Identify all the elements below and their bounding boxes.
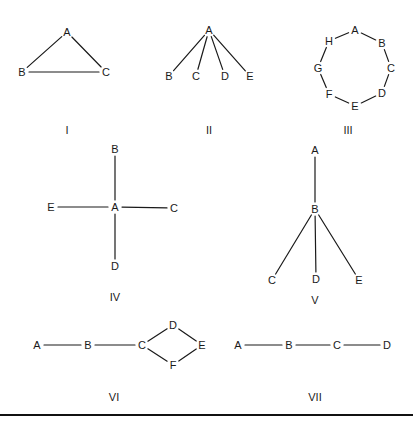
network-diagrams-figure: ABCIABCDEIIABCDEFGHIIIBEACDIVABCDEVABCDE… bbox=[0, 0, 413, 429]
node-g: G bbox=[314, 62, 323, 74]
node-a: A bbox=[205, 24, 213, 36]
node-d: D bbox=[169, 319, 177, 331]
node-f: F bbox=[326, 88, 333, 100]
node-a: A bbox=[351, 24, 359, 36]
node-a: A bbox=[311, 144, 319, 156]
node-b: B bbox=[18, 66, 25, 78]
edge-h-a bbox=[335, 33, 348, 39]
node-e: E bbox=[351, 100, 358, 112]
node-b: B bbox=[111, 143, 118, 155]
network-v: ABCDEV bbox=[268, 144, 363, 306]
edge-g-h bbox=[321, 47, 327, 61]
node-c: C bbox=[268, 274, 276, 286]
node-e: E bbox=[355, 274, 362, 286]
node-d: D bbox=[312, 273, 320, 285]
network-i: ABCI bbox=[18, 26, 110, 136]
node-f: F bbox=[170, 359, 177, 371]
network-caption: VII bbox=[308, 391, 321, 403]
node-a: A bbox=[63, 26, 71, 38]
node-b: B bbox=[84, 339, 91, 351]
node-d: D bbox=[383, 339, 391, 351]
node-d: D bbox=[378, 87, 386, 99]
network-vi: ABCDEFVI bbox=[33, 319, 205, 403]
edge-b-c bbox=[276, 215, 312, 274]
edge-a-e bbox=[214, 35, 246, 71]
edge-a-b bbox=[27, 37, 62, 68]
edge-f-g bbox=[321, 74, 327, 87]
network-caption: I bbox=[65, 124, 68, 136]
edge-f-c bbox=[148, 349, 167, 361]
edge-d-e bbox=[361, 96, 375, 103]
node-e: E bbox=[47, 201, 54, 213]
node-d: D bbox=[111, 260, 119, 272]
node-c: C bbox=[138, 339, 146, 351]
network-caption: VI bbox=[109, 391, 119, 403]
edge-d-e bbox=[179, 329, 196, 341]
edge-a-d bbox=[211, 37, 222, 70]
node-c: C bbox=[192, 70, 200, 82]
node-a: A bbox=[234, 339, 242, 351]
network-iii: ABCDEFGHIII bbox=[314, 24, 395, 136]
network-iv: BEACDIV bbox=[47, 143, 178, 303]
edge-a-b bbox=[361, 33, 375, 40]
edge-c-d bbox=[384, 75, 388, 87]
edge-a-c bbox=[72, 37, 101, 67]
node-e: E bbox=[198, 339, 205, 351]
network-caption: II bbox=[206, 124, 212, 136]
network-vii: ABCDVII bbox=[234, 339, 391, 403]
network-ii: ABCDEII bbox=[165, 24, 253, 136]
node-d: D bbox=[221, 70, 229, 82]
node-c: C bbox=[170, 202, 178, 214]
edge-b-d bbox=[315, 216, 316, 272]
node-e: E bbox=[246, 70, 253, 82]
network-caption: IV bbox=[110, 291, 121, 303]
edge-c-d bbox=[148, 329, 167, 341]
network-caption: III bbox=[343, 124, 352, 136]
node-b: B bbox=[378, 37, 385, 49]
edge-a-c bbox=[122, 207, 167, 208]
node-c: C bbox=[102, 66, 110, 78]
network-caption: V bbox=[311, 294, 319, 306]
node-c: C bbox=[333, 339, 341, 351]
node-h: H bbox=[325, 35, 333, 47]
node-b: B bbox=[311, 203, 318, 215]
node-a: A bbox=[111, 201, 119, 213]
edge-b-c bbox=[384, 50, 388, 62]
node-b: B bbox=[165, 70, 172, 82]
edge-a-b bbox=[174, 35, 205, 70]
edge-b-e bbox=[319, 215, 356, 274]
node-c: C bbox=[387, 62, 395, 74]
networks-layer: ABCIABCDEIIABCDEFGHIIIBEACDIVABCDEVABCDE… bbox=[18, 24, 395, 403]
node-a: A bbox=[33, 339, 41, 351]
node-b: B bbox=[285, 339, 292, 351]
edge-e-f bbox=[179, 349, 196, 361]
edge-e-f bbox=[335, 97, 348, 103]
